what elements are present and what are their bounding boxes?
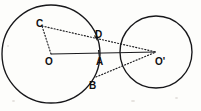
scan-speck (175, 97, 178, 99)
point-label-O: O (45, 57, 53, 67)
point-label-A: A (96, 57, 103, 67)
segment-O-to-O-prime (51, 52, 156, 54)
point-label-O-prime: O' (155, 57, 165, 67)
point-label-B: B (89, 81, 96, 91)
scan-speck (131, 100, 135, 102)
point-label-D: D (95, 30, 102, 40)
scan-speck (7, 45, 9, 47)
scan-speck (12, 100, 15, 102)
point-label-C: C (36, 19, 43, 29)
geometry-figure: C D O A O' B (0, 0, 201, 111)
segment-O-to-C (42, 26, 51, 54)
segment-B-to-O-prime (96, 52, 156, 77)
